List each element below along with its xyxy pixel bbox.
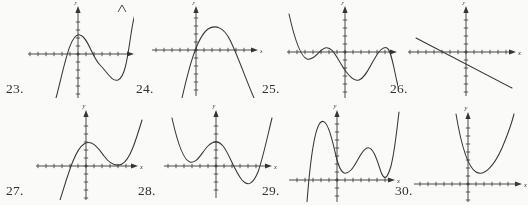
figure-number-label: 26. — [390, 82, 407, 96]
y-axis-label: y — [462, 2, 466, 5]
y-axis-arrowhead — [465, 112, 470, 119]
y-axis-arrowhead — [342, 6, 347, 13]
x-axis-arrowhead — [131, 163, 138, 168]
y-axis-arrowhead — [213, 110, 218, 117]
x-axis-arrowhead — [515, 181, 522, 186]
y-axis-label: y — [82, 104, 86, 109]
y-axis-arrowhead — [75, 6, 80, 13]
y-axis-label: y — [341, 2, 345, 5]
figure-number-label: 25. — [262, 82, 279, 96]
x-axis-arrowhead — [265, 163, 272, 168]
curve-quintic-positive-leading-w-above-axis — [307, 112, 399, 202]
figure-number-label: 24. — [136, 82, 153, 96]
figure-24: xy — [150, 2, 262, 98]
graph-canvas: xy — [32, 104, 144, 200]
x-axis-arrowhead — [251, 47, 258, 52]
x-axis-arrowhead — [509, 49, 516, 54]
curve-quartic-positive-leading-w — [172, 118, 272, 184]
figure-number-label: 27. — [6, 184, 23, 198]
figure-26: xy — [404, 2, 524, 98]
x-axis-label: x — [273, 163, 277, 170]
graph-canvas: xy — [160, 104, 278, 200]
figure-number-label: 29. — [262, 184, 279, 198]
textbook-figure-page: xyxyxyxyxyxyxyxy 23.24.25.26.27.28.29.30… — [0, 0, 528, 205]
curve-line-negative-slope — [416, 38, 512, 88]
curve-arrowhead — [118, 5, 126, 12]
curve-quartic-negative-leading-w — [289, 14, 398, 98]
figure-30: xy — [410, 104, 528, 202]
x-axis-label: x — [259, 47, 262, 54]
y-axis-label: y — [212, 104, 216, 109]
x-axis-label: x — [517, 49, 521, 56]
figure-27: xy — [32, 104, 144, 200]
y-axis-arrowhead — [83, 110, 88, 117]
figure-29: xy — [285, 104, 401, 202]
x-axis-label: x — [139, 163, 143, 170]
graph-canvas: xy — [285, 104, 401, 202]
y-axis-arrowhead — [334, 110, 339, 117]
y-axis-label: y — [74, 2, 78, 5]
figure-number-label: 30. — [395, 184, 412, 198]
figure-number-label: 23. — [6, 82, 23, 96]
y-axis-label: y — [333, 104, 337, 109]
figure-number-label: 28. — [138, 184, 155, 198]
y-axis-label: y — [464, 104, 468, 111]
y-axis-arrowhead — [463, 6, 468, 13]
figure-23: xy — [22, 2, 134, 98]
graph-canvas: xy — [283, 2, 398, 98]
graph-canvas: xy — [150, 2, 262, 98]
x-axis-label: x — [523, 181, 527, 188]
x-axis-arrowhead — [388, 177, 395, 182]
graph-canvas: xy — [22, 2, 134, 98]
figure-28: xy — [160, 104, 278, 200]
curve-cubic-positive-leading — [56, 6, 134, 98]
graph-canvas: xy — [404, 2, 524, 98]
graph-canvas: xy — [410, 104, 528, 202]
figure-25: xy — [283, 2, 398, 98]
y-axis-arrowhead — [193, 6, 198, 13]
curve-parabola-positive-leading — [456, 114, 514, 173]
curve-cubic-positive-leading-shifted-up — [60, 120, 142, 200]
y-axis-label: y — [192, 2, 196, 5]
curve-parabola-negative-leading — [182, 27, 254, 98]
